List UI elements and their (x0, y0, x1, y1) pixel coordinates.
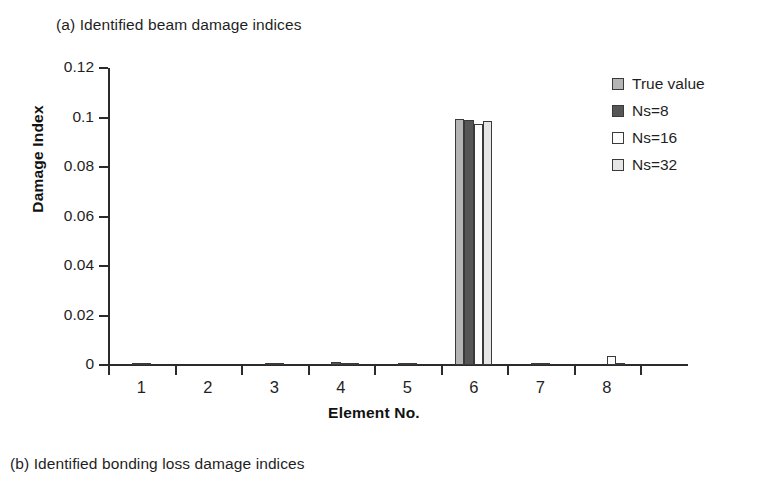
bar (331, 362, 340, 365)
legend-swatch-icon (612, 78, 624, 90)
bar (350, 363, 359, 365)
bar (540, 363, 549, 365)
bar (464, 120, 473, 365)
y-axis-tick-label: 0.08 (34, 157, 94, 175)
x-axis-tick (175, 366, 177, 375)
bar (274, 363, 283, 365)
x-axis-tick (374, 366, 376, 375)
bar (616, 363, 625, 365)
y-axis-tick (99, 364, 108, 366)
bar (483, 121, 492, 365)
legend-item[interactable]: Ns=32 (612, 151, 762, 178)
x-axis-tick-label: 1 (111, 378, 171, 397)
x-axis-tick (441, 366, 443, 375)
y-axis-tick-label: 0.06 (34, 207, 94, 225)
legend-item[interactable]: Ns=8 (612, 97, 762, 124)
chart-figure: Damage Index Element No. 00.020.040.060.… (0, 0, 764, 440)
bar (265, 363, 274, 365)
bar (607, 356, 616, 365)
figure-caption-b: (b) Identified bonding loss damage indic… (10, 455, 305, 473)
x-axis-tick (507, 366, 509, 375)
y-axis-tick (99, 315, 108, 317)
legend-item[interactable]: Ns=16 (612, 124, 762, 151)
y-axis-tick (99, 166, 108, 168)
y-axis-tick-label: 0.1 (34, 108, 94, 126)
legend-swatch-icon (612, 132, 624, 144)
plot-area (108, 68, 640, 365)
x-axis-tick-label: 5 (377, 378, 437, 397)
x-axis-tick-label: 2 (178, 378, 238, 397)
y-axis-tick (99, 117, 108, 119)
x-axis-tick (574, 366, 576, 375)
bar (407, 363, 416, 365)
x-axis-tick-label: 6 (444, 378, 504, 397)
x-axis-tick (108, 366, 110, 375)
x-axis-tick-label: 4 (311, 378, 371, 397)
x-axis-tick-label: 3 (244, 378, 304, 397)
y-axis-tick-label: 0.12 (34, 58, 94, 76)
y-axis-tick-label: 0.04 (34, 256, 94, 274)
chart-legend: True valueNs=8Ns=16Ns=32 (612, 70, 762, 178)
bar (398, 363, 407, 365)
y-axis-tick (99, 216, 108, 218)
x-axis-tick (640, 366, 642, 375)
legend-swatch-icon (612, 159, 624, 171)
y-axis-tick-label: 0 (34, 355, 94, 373)
y-axis-tick (99, 265, 108, 267)
legend-label: True value (632, 75, 705, 93)
x-axis-title: Element No. (108, 404, 640, 422)
x-axis-tick (308, 366, 310, 375)
x-axis-tick-label: 7 (510, 378, 570, 397)
x-axis-tick-label: 8 (577, 378, 637, 397)
bar (341, 363, 350, 365)
bar (455, 119, 464, 365)
y-axis-tick-label: 0.02 (34, 306, 94, 324)
legend-swatch-icon (612, 105, 624, 117)
x-axis-tick (241, 366, 243, 375)
y-axis-tick (99, 67, 108, 69)
legend-label: Ns=16 (632, 129, 677, 147)
legend-item[interactable]: True value (612, 70, 762, 97)
legend-label: Ns=8 (632, 102, 669, 120)
bar (132, 363, 141, 365)
legend-label: Ns=32 (632, 156, 677, 174)
bar (141, 363, 150, 365)
bar (531, 363, 540, 365)
bar (474, 124, 483, 365)
